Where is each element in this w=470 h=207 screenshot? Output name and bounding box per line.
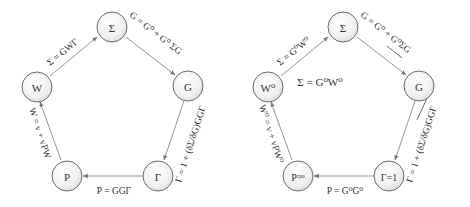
node-g: G bbox=[173, 71, 203, 101]
label-gamma-to-p: P = GGΓ bbox=[97, 186, 132, 196]
node-sigma: Σ bbox=[97, 12, 127, 42]
node-gamma: Γ=1 bbox=[374, 161, 404, 191]
hedin-pentagon-diagrams: Σ = GWΓ G = G⁰ + G⁰ ΣG Γ = 1 + (δΣ/δG)GG… bbox=[0, 0, 470, 207]
node-w-label: W bbox=[32, 82, 43, 94]
node-g-label: G bbox=[184, 81, 192, 93]
label-p-to-w: W = v + vPW bbox=[27, 107, 53, 160]
node-g-label: G bbox=[415, 81, 423, 93]
node-g: G bbox=[404, 71, 434, 101]
node-w: W bbox=[22, 72, 52, 102]
node-p: P bbox=[52, 161, 82, 191]
node-sigma-label: Σ bbox=[340, 22, 346, 34]
label-sigma-to-g: G = G⁰ + G⁰ΣG bbox=[359, 10, 413, 55]
node-p-label: P bbox=[64, 171, 70, 183]
node-gamma-label: Γ=1 bbox=[381, 172, 397, 183]
node-gamma: Γ bbox=[143, 161, 173, 191]
label-sigma-to-g: G = G⁰ + G⁰ ΣG bbox=[128, 10, 184, 57]
diagram-hedin-full: Σ = GWΓ G = G⁰ + G⁰ ΣG Γ = 1 + (δΣ/δG)GG… bbox=[22, 10, 209, 196]
label-w-to-sigma: Σ = G⁰W⁰ bbox=[275, 35, 312, 67]
node-sigma-label: Σ bbox=[109, 22, 115, 34]
node-p-label: Pʳᵖᵃ bbox=[291, 172, 305, 183]
edge-g-to-gamma bbox=[395, 101, 415, 160]
node-p: Pʳᵖᵃ bbox=[283, 161, 313, 191]
diagram-gw-approximation: Σ = G⁰W⁰ G = G⁰ + G⁰ΣG Γ = 1 + (δΣ/δG)GG… bbox=[253, 10, 440, 196]
label-w-to-sigma: Σ = GWΓ bbox=[45, 36, 80, 67]
label-p-to-w: W⁰ = v + vPW⁰ bbox=[257, 104, 285, 165]
label-gamma-to-p: P = G⁰G⁰ bbox=[327, 186, 364, 196]
node-w: W⁰ bbox=[253, 72, 283, 102]
node-gamma-label: Γ bbox=[155, 171, 161, 183]
node-sigma: Σ bbox=[328, 12, 358, 42]
center-label: Σ = G⁰W⁰ bbox=[297, 76, 343, 88]
node-w-label: W⁰ bbox=[261, 82, 276, 94]
edge-g-to-gamma bbox=[164, 101, 184, 160]
